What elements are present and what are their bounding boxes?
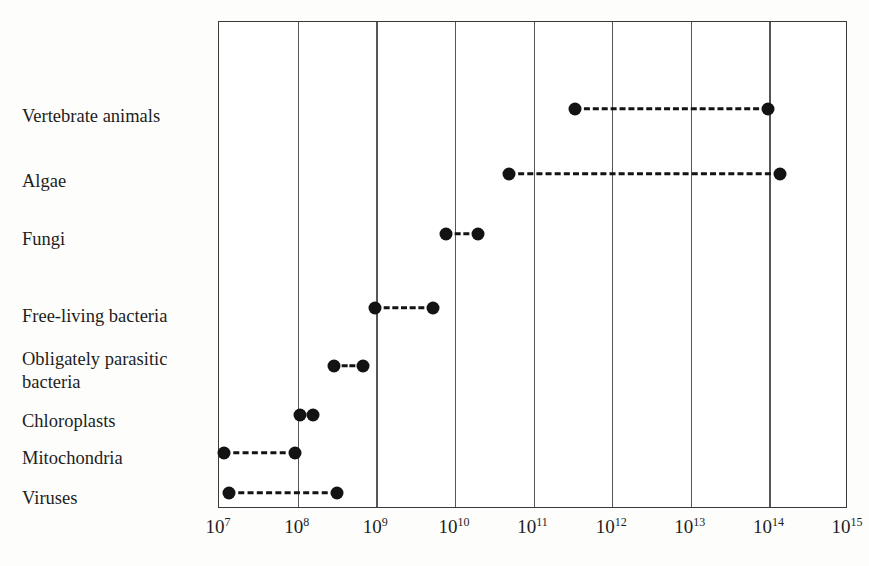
range-endpoint-dot-low xyxy=(569,103,582,116)
range-endpoint-dot-low xyxy=(369,302,382,315)
x-tick-label-9: 109 xyxy=(363,516,388,537)
category-label-column: Vertebrate animalsAlgaeFungiFree-living … xyxy=(22,0,212,566)
range-connector-line xyxy=(375,306,433,309)
category-label-1: Algae xyxy=(22,170,222,193)
gridline-9 xyxy=(376,22,377,507)
plot-area xyxy=(218,21,847,508)
range-endpoint-dot-low xyxy=(293,409,306,422)
category-label-line: Fungi xyxy=(22,228,222,251)
category-label-line: Viruses xyxy=(22,487,222,510)
category-label-5: Chloroplasts xyxy=(22,410,222,433)
category-label-line: Algae xyxy=(22,170,222,193)
range-connector-line xyxy=(509,172,780,175)
range-endpoint-dot-high xyxy=(471,228,484,241)
range-endpoint-dot-high xyxy=(357,360,370,373)
x-tick-label-7: 107 xyxy=(206,516,231,537)
range-endpoint-dot-high xyxy=(773,168,786,181)
category-label-line: Mitochondria xyxy=(22,447,222,470)
range-endpoint-dot-high xyxy=(306,409,319,422)
gridline-12 xyxy=(612,22,613,507)
range-endpoint-dot-low xyxy=(218,447,231,460)
x-tick-label-11: 1011 xyxy=(517,516,548,537)
range-endpoint-dot-low xyxy=(223,487,236,500)
category-label-2: Fungi xyxy=(22,228,222,251)
range-endpoint-dot-high xyxy=(331,487,344,500)
x-tick-label-8: 108 xyxy=(284,516,309,537)
category-label-line: Chloroplasts xyxy=(22,410,222,433)
range-endpoint-dot-low xyxy=(440,228,453,241)
range-endpoint-dot-high xyxy=(427,302,440,315)
range-connector-line xyxy=(575,107,768,110)
gridline-11 xyxy=(534,22,535,507)
category-label-6: Mitochondria xyxy=(22,447,222,470)
figure-root: Vertebrate animalsAlgaeFungiFree-living … xyxy=(0,0,869,566)
category-label-3: Free-living bacteria xyxy=(22,305,222,328)
x-tick-label-12: 1012 xyxy=(596,516,627,537)
category-label-line: Obligately parasitic xyxy=(22,348,222,371)
range-endpoint-dot-low xyxy=(328,360,341,373)
range-connector-line xyxy=(229,491,337,494)
range-endpoint-dot-high xyxy=(762,103,775,116)
range-endpoint-dot-high xyxy=(288,447,301,460)
x-tick-label-14: 1014 xyxy=(753,516,784,537)
gridline-10 xyxy=(455,22,456,507)
x-tick-label-10: 1010 xyxy=(438,516,469,537)
category-label-7: Viruses xyxy=(22,487,222,510)
category-label-line: Free-living bacteria xyxy=(22,305,222,328)
gridline-14 xyxy=(769,22,770,507)
x-tick-label-13: 1013 xyxy=(674,516,705,537)
category-label-0: Vertebrate animals xyxy=(22,105,222,128)
x-tick-label-15: 1015 xyxy=(832,516,863,537)
category-label-line: Vertebrate animals xyxy=(22,105,222,128)
range-connector-line xyxy=(224,451,295,454)
range-endpoint-dot-low xyxy=(502,168,515,181)
category-label-4: Obligately parasiticbacteria xyxy=(22,348,222,393)
category-label-line: bacteria xyxy=(22,371,222,394)
gridline-13 xyxy=(691,22,692,507)
gridline-8 xyxy=(298,22,299,507)
